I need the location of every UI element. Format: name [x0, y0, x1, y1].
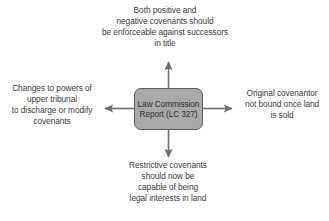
branch-label-left: Changes to powers of upper tribunal to d…: [2, 83, 102, 127]
branch-up-line-1: Both positive and: [78, 5, 252, 16]
branch-up-line-3: be enforceable against successors: [78, 27, 252, 38]
branch-left-line-3: to discharge or modify: [2, 105, 102, 116]
center-node: Law Commission Report (LC 327): [134, 88, 203, 130]
branch-label-right: Original covenantor not bound once land …: [236, 88, 328, 121]
branch-up-line-4: in title: [78, 38, 252, 49]
branch-up-line-2: negative covenants should: [78, 16, 252, 27]
concept-diagram: Law Commission Report (LC 327) Both posi…: [0, 0, 329, 221]
branch-left-line-4: covenants: [2, 116, 102, 127]
branch-down-line-1: Restrictive covenants: [96, 160, 240, 171]
branch-down-line-2: should now be: [96, 171, 240, 182]
branch-down-line-4: legal interests in land: [96, 193, 240, 204]
branch-right-line-2: not bound once land: [236, 99, 328, 110]
branch-left-line-1: Changes to powers of: [2, 83, 102, 94]
branch-label-down: Restrictive covenants should now be capa…: [96, 160, 240, 204]
center-node-line-2: Report (LC 327): [140, 109, 198, 120]
branch-down-line-3: capable of being: [96, 182, 240, 193]
branch-left-line-2: upper tribunal: [2, 94, 102, 105]
branch-label-up: Both positive and negative covenants sho…: [78, 5, 252, 49]
branch-right-line-3: is sold: [236, 110, 328, 121]
branch-right-line-1: Original covenantor: [236, 88, 328, 99]
center-node-line-1: Law Commission: [138, 99, 200, 110]
